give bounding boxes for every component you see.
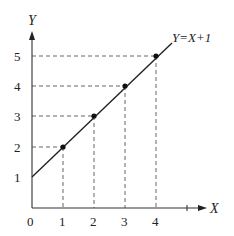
y-tick-label: 5 xyxy=(14,49,21,64)
data-point xyxy=(122,83,127,88)
data-point xyxy=(91,113,96,118)
x-tick-label: 1 xyxy=(59,214,66,229)
guide-lines xyxy=(32,56,156,208)
x-axis-label: X xyxy=(209,201,219,216)
y-tick-label: 1 xyxy=(14,170,21,185)
x-tick-label: 4 xyxy=(152,214,159,229)
line-chart: Y X Y=X+1 0 1 2 3 4 1 2 3 4 5 xyxy=(0,0,234,236)
y-tick-labels: 1 2 3 4 5 xyxy=(14,49,21,185)
y-axis-label: Y xyxy=(28,13,38,28)
y-tick-label: 2 xyxy=(14,140,21,155)
data-point xyxy=(60,144,65,149)
x-axis-arrow-icon xyxy=(198,205,207,211)
data-point xyxy=(153,53,158,58)
equation-label: Y=X+1 xyxy=(172,30,211,45)
x-tick-label: 2 xyxy=(90,214,97,229)
y-axis-arrow-icon xyxy=(29,31,35,40)
x-tick-label: 3 xyxy=(121,214,128,229)
y-tick-label: 3 xyxy=(14,109,21,124)
y-tick-label: 4 xyxy=(14,79,21,94)
series-line xyxy=(32,43,172,177)
axes xyxy=(32,36,200,211)
x-tick-labels: 1 2 3 4 xyxy=(59,214,159,229)
origin-label: 0 xyxy=(27,214,34,229)
